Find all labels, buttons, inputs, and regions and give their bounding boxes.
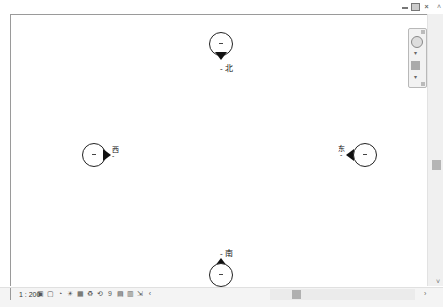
sun-path-icon[interactable]: ◔ [56,290,64,298]
marker-dash [363,154,367,155]
marker-label-north: - 北 [220,62,233,73]
vertical-scrollbar[interactable] [427,14,443,286]
elevation-marker-north[interactable]: - 北 [209,32,249,77]
wheel-dropdown-icon[interactable]: ▾ [414,49,417,56]
zoom-dropdown-icon[interactable]: ▾ [414,73,417,80]
view-window-controls: × [400,3,431,11]
marker-dash-label: - [112,152,114,159]
vertical-scroll-thumb[interactable] [432,160,441,170]
view-frame-left [10,14,11,286]
show-crop-icon[interactable]: ♻ [86,290,94,298]
navigation-bar: ▾ ▾ [408,28,427,88]
marker-arrow-icon [215,52,227,60]
marker-circle [209,263,233,287]
minimize-icon[interactable] [400,3,409,11]
view-frame-top [10,14,428,15]
navbar-options-icon[interactable] [421,82,425,86]
visual-style-icon[interactable]: ▢ [46,290,54,298]
marker-dash [219,43,223,44]
zoom-icon[interactable] [411,61,420,70]
steering-wheel-icon[interactable] [411,36,423,48]
view-control-tools: ▣ ▢ ◔ ☀ ▦ ♻ ⟲ 9 ▤ ▥ ⇲ ‹ [36,290,154,298]
marker-dash [219,274,223,275]
marker-circle [353,143,377,167]
reveal-hidden-icon[interactable]: 9 [106,290,114,298]
marker-dash-label: - [340,151,342,158]
marker-dash [92,154,96,155]
horizontal-scroll-thumb[interactable] [292,290,301,299]
scroll-left-icon[interactable]: ‹ [146,290,154,298]
scroll-down-icon[interactable]: ˅ [436,278,440,285]
marker-arrow-icon [103,149,111,161]
highlight-icon[interactable]: ⇲ [136,290,144,298]
temporary-hide-icon[interactable]: ⟲ [96,290,104,298]
horizontal-scrollbar[interactable] [270,289,415,300]
navbar-close-icon[interactable] [421,30,425,34]
elevation-marker-west[interactable]: 西 - [82,143,127,169]
elevation-marker-east[interactable]: 东 - [336,143,381,169]
statusbar-separator [10,288,11,300]
elevation-marker-south[interactable]: - 南 [209,247,249,287]
analytical-model-icon[interactable]: ▥ [126,290,134,298]
restore-icon[interactable] [411,3,420,11]
crop-view-icon[interactable]: ▦ [76,290,84,298]
scroll-up-icon[interactable]: ˄ [437,3,441,10]
close-icon[interactable]: × [422,3,431,11]
scroll-right-icon[interactable]: › [424,290,426,297]
detail-level-icon[interactable]: ▣ [36,290,44,298]
worksharing-icon[interactable]: ▤ [116,290,124,298]
marker-label-south: - 南 [220,247,233,258]
shadows-icon[interactable]: ☀ [66,290,74,298]
